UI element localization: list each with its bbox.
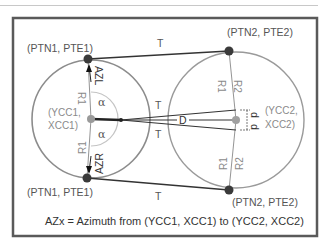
label-azl: AZL (93, 66, 105, 85)
azl-arrowhead-icon (86, 64, 92, 72)
label-tangent-inner-top: T (155, 99, 162, 111)
label-ptn2-bottom: (PTN2, PTE2) (232, 196, 298, 208)
label-r1-upper-c2: R1 (216, 80, 227, 93)
label-d-bottom: d (249, 124, 261, 130)
caption: AZx = Azimuth from (YCC1, XCC1) to (YCC2… (45, 215, 304, 227)
label-azr: AZR (93, 153, 105, 174)
point-ptn1-bottom (83, 174, 92, 183)
label-ycc2: (YCC2, (265, 105, 298, 116)
label-tangent-top: T (157, 37, 164, 49)
label-distance: D (179, 114, 187, 126)
point-ptn2-bottom (225, 186, 234, 195)
label-r2-lower-c2: R2 (234, 157, 245, 170)
label-ptn1-bottom: (PTN1, PTE1) (27, 186, 93, 198)
label-ptn2-top: (PTN2, PTE2) (227, 26, 293, 38)
label-xcc2: XCC2) (265, 119, 295, 130)
point-ptn2-top (225, 47, 234, 56)
label-xcc1: XCC1) (48, 120, 78, 131)
point-ptn1-top (84, 55, 93, 64)
label-alpha-top: α (98, 96, 106, 109)
azr-arrowhead-icon (86, 166, 92, 174)
label-r1-bottom: R1 (77, 141, 88, 154)
tangent-diagram: (PTN1, PTE1) (PTN1, PTE1) (PTN2, PTE2) (… (0, 0, 326, 249)
label-tangent-inner-bottom: T (155, 128, 162, 140)
label-ycc1: (YCC1, (48, 107, 81, 118)
center-2 (232, 116, 240, 124)
label-r2-upper-c2: R2 (232, 80, 243, 93)
label-r1-lower-c2: R1 (218, 157, 229, 170)
label-ptn1-top: (PTN1, PTE1) (27, 42, 93, 54)
outer-tangent-bottom (87, 178, 229, 190)
label-alpha-bottom: α (98, 128, 106, 141)
radius-line-bottom-2 (229, 120, 236, 190)
label-d-top: d (249, 112, 261, 118)
center-1 (87, 115, 95, 123)
intersection-point (119, 118, 123, 122)
center-stub (91, 119, 121, 120)
label-r1-top: R1 (76, 92, 87, 105)
label-tangent-bottom: T (155, 190, 162, 202)
